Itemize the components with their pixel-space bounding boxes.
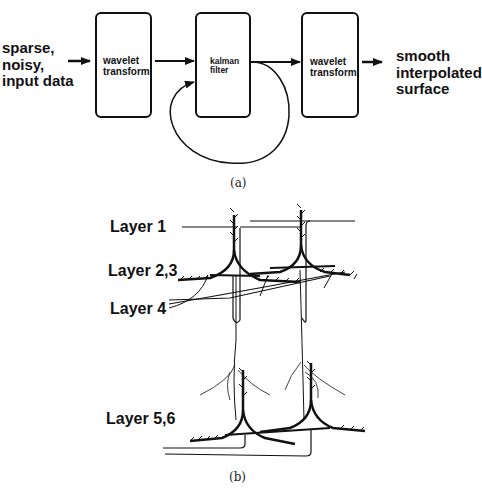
layer-1-label: Layer 1	[110, 218, 166, 236]
layer-2-3-label: Layer 2,3	[108, 262, 177, 280]
cortex-layer-diagram	[163, 204, 365, 456]
input-label: sparse, noisy, input data	[2, 40, 74, 90]
output-label: smooth interpolated surface	[396, 48, 482, 98]
caption-b: (b)	[229, 470, 246, 484]
box-label-wavelet-transform-2: wavelet transform	[310, 56, 357, 78]
layer-5-6-label: Layer 5,6	[106, 410, 175, 428]
box-label-wavelet-transform-1: wavelet transform	[103, 55, 150, 77]
pipeline-diagram	[68, 13, 382, 163]
caption-a: (a)	[230, 176, 247, 190]
feedback-loop-arrow	[170, 62, 289, 163]
layer-4-label: Layer 4	[110, 300, 166, 318]
box-label-kalman-filter: kalman filter	[210, 57, 239, 76]
